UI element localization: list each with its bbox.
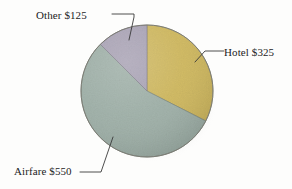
slice-label-hotel: Hotel $325 [224,46,274,59]
slice-label-other: Other $125 [36,9,87,22]
slice-label-airfare: Airfare $550 [14,165,72,178]
pie-sheen-overlay [81,25,213,157]
pie-chart-canvas [0,0,292,189]
pie-chart-figure: Other $125 Hotel $325 Airfare $550 [0,0,292,189]
